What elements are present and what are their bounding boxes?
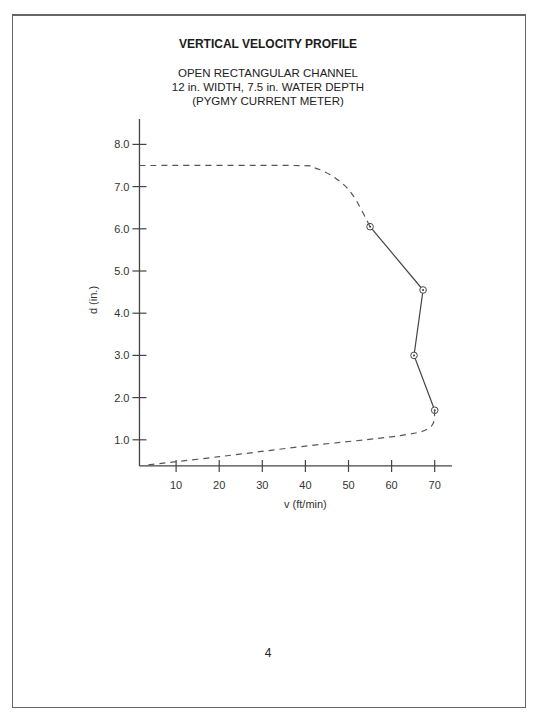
x-tick-label: 60: [385, 479, 397, 491]
data-point-dot: [413, 354, 415, 356]
series-extrapolated-top: [139, 165, 370, 226]
page-number: 4: [0, 646, 536, 660]
data-point-dot: [422, 289, 424, 291]
y-tick-label: 1.0: [114, 434, 129, 446]
x-tick-label: 10: [170, 479, 182, 491]
y-tick-label: 2.0: [114, 392, 129, 404]
y-tick-label: 8.0: [114, 138, 129, 150]
y-tick-label: 5.0: [114, 265, 129, 277]
y-axis-label: d (in.): [87, 286, 99, 314]
x-axis-label: v (ft/min): [284, 498, 327, 510]
x-tick-label: 20: [213, 479, 225, 491]
x-tick-label: 50: [342, 479, 354, 491]
x-tick-label: 30: [256, 479, 268, 491]
x-tick-label: 40: [299, 479, 311, 491]
series-extrapolated-bottom: [146, 410, 435, 465]
chart-series: [139, 165, 438, 465]
x-tick-label: 70: [429, 479, 441, 491]
y-tick-label: 7.0: [114, 181, 129, 193]
y-tick-label: 3.0: [114, 349, 129, 361]
velocity-profile-chart: 102030405060701.02.03.04.05.06.07.08.0 v…: [0, 0, 536, 716]
y-tick-label: 6.0: [114, 223, 129, 235]
y-tick-label: 4.0: [114, 307, 129, 319]
series-measured: [370, 227, 435, 411]
